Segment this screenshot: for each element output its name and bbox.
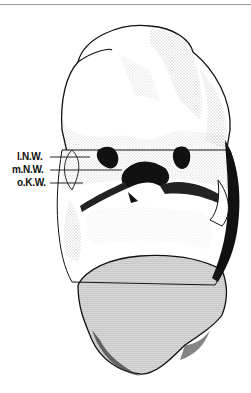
lower-body-outline [78, 256, 227, 375]
embryo-illustration [0, 0, 251, 393]
label-mnw: m.N.W. [12, 165, 44, 175]
label-okw: o.K.W. [17, 178, 46, 188]
label-lnw: l.N.W. [17, 152, 42, 162]
